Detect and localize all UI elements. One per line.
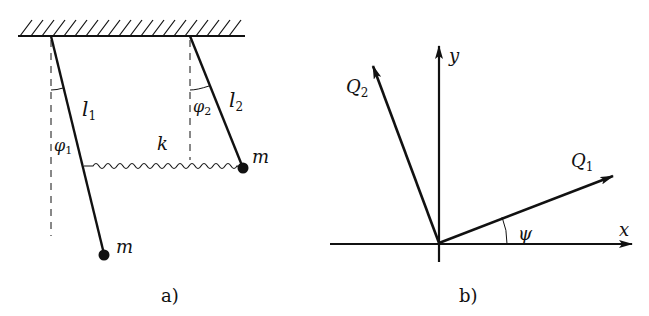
diagram-canvas: l1 l2 φ1 φ2 k m m a) y x Q2 Q1 ψ b) xyxy=(0,0,649,316)
angle-arc-psi xyxy=(502,217,507,244)
caption-b: b) xyxy=(459,285,478,306)
angle-arc-phi2 xyxy=(190,86,209,90)
angle-arc-phi1 xyxy=(51,88,63,90)
label-mass-right: m xyxy=(252,146,269,167)
figure-b-axes: y x Q2 Q1 ψ b) xyxy=(330,45,632,306)
mass-right xyxy=(238,163,249,174)
caption-a: a) xyxy=(161,285,179,306)
label-y-axis: y xyxy=(448,45,460,66)
spring-k xyxy=(84,164,243,169)
label-l1: l1 xyxy=(82,97,96,123)
fixed-ceiling xyxy=(18,20,245,36)
label-phi1: φ1 xyxy=(54,136,72,157)
label-x-axis: x xyxy=(619,219,629,240)
label-mass-left: m xyxy=(116,236,133,257)
label-spring-k: k xyxy=(157,133,168,154)
ceiling-hatching xyxy=(20,20,241,36)
vector-q2 xyxy=(373,66,439,243)
label-q2: Q2 xyxy=(346,76,368,100)
label-q1: Q1 xyxy=(571,150,593,174)
mass-left xyxy=(99,250,110,261)
label-phi2: φ2 xyxy=(193,97,211,118)
label-l2: l2 xyxy=(229,88,243,114)
figure-a-double-pendulum: l1 l2 φ1 φ2 k m m a) xyxy=(18,20,269,306)
label-psi: ψ xyxy=(518,223,533,244)
